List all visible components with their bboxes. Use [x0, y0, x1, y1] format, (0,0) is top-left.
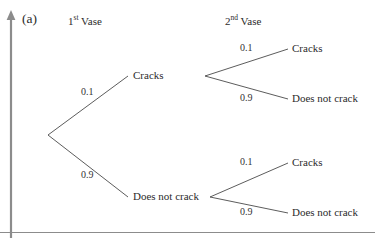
stage-1-noun: Vase: [81, 15, 102, 27]
probability-stage1-does-not-crack: 0.9: [81, 170, 94, 180]
stage-1-header: 1st Vase: [68, 16, 102, 27]
node-stage2-upper-cracks-label: Cracks: [292, 43, 323, 54]
node-stage2-lower-cracks-label: Cracks: [292, 157, 323, 168]
stage-2-ordinal-suffix: nd: [231, 13, 239, 22]
stage-2-header: 2nd Vase: [225, 16, 261, 27]
panel-label: (a): [22, 12, 37, 26]
node-stage2-lower-does-not-crack-label: Does not crack: [292, 207, 358, 218]
branch-root-to-does-not-crack: [48, 135, 128, 197]
stage-1-ordinal-suffix: st: [74, 13, 79, 22]
probability-stage1-cracks: 0.1: [81, 87, 94, 97]
branch-does-not-crack-to-cracks: [210, 163, 288, 197]
probability-stage2-upper-does-not-crack: 0.9: [240, 93, 253, 103]
probability-stage2-upper-cracks: 0.1: [240, 43, 253, 53]
node-stage2-upper-does-not-crack-label: Does not crack: [292, 93, 358, 104]
probability-tree-figure: (a) 1st Vase 2nd Vase Cracks Does not cr…: [0, 0, 375, 243]
vertical-axis-arrow: [7, 10, 16, 238]
stage-2-noun: Vase: [241, 15, 262, 27]
probability-stage2-lower-does-not-crack: 0.9: [240, 207, 253, 217]
branch-cracks-to-cracks: [205, 49, 288, 76]
node-stage1-cracks-label: Cracks: [133, 70, 164, 81]
probability-stage2-lower-cracks: 0.1: [240, 157, 253, 167]
node-stage1-does-not-crack-label: Does not crack: [133, 191, 199, 202]
branch-root-to-cracks: [48, 76, 128, 135]
